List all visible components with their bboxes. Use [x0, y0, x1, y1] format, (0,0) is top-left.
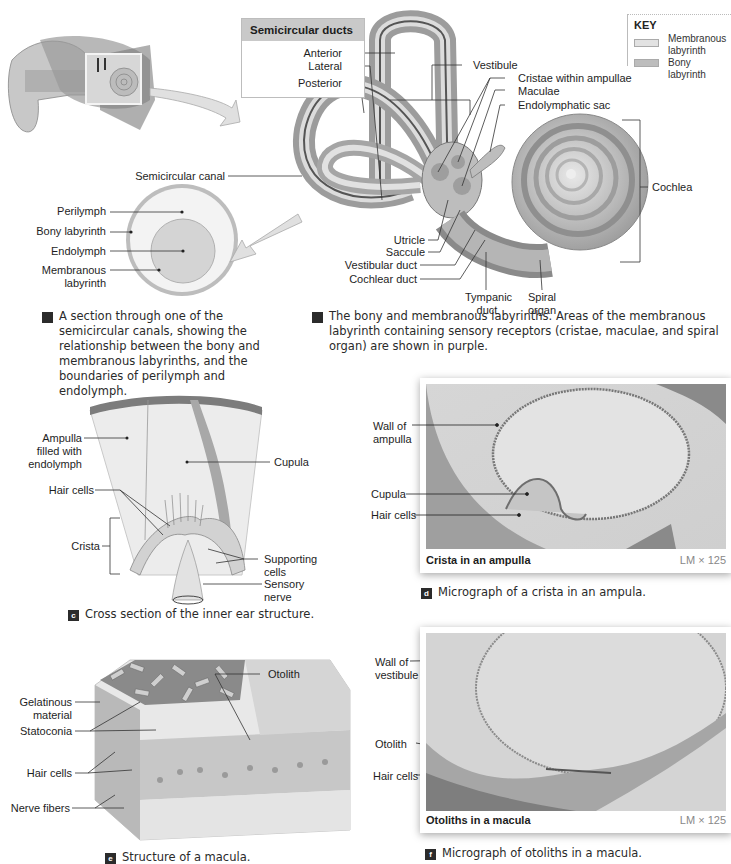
micrograph-crista-magnification: LM × 125 [680, 554, 726, 566]
macula-structure-illustration [72, 660, 350, 840]
ear-overview-illustration [8, 36, 155, 132]
caption-letter-c: c [68, 610, 79, 621]
caption-letter-d: d [421, 588, 432, 599]
label-cristae: Cristae within ampullae [518, 72, 632, 85]
legend-membranous-label: Membranouslabyrinth [668, 33, 726, 57]
label-wall-of-ampulla: Wall ofampulla [373, 420, 412, 446]
label-saccule: Saccule [360, 246, 425, 259]
arrow-to-cross-section [230, 214, 302, 262]
caption-f: fMicrograph of otoliths in a macula. [425, 846, 725, 861]
bony-swatch [634, 59, 659, 67]
micrograph-crista: Crista in an ampulla LM × 125 [420, 378, 731, 573]
label-supporting-cells: Supportingcells [264, 553, 317, 579]
caption-d: dMicrograph of a crista in an ampula. [421, 585, 721, 600]
label-membranous-labyrinth: Membranouslabyrinth [20, 264, 106, 290]
membranous-swatch [634, 39, 659, 47]
micrograph-otoliths-magnification: LM × 125 [680, 814, 726, 826]
caption-b: bThe bony and membranous labyrinths. Are… [312, 309, 727, 354]
legend-bony-label: Bony labyrinth [668, 57, 731, 81]
arrow-to-labyrinth [150, 88, 240, 126]
caption-letter-f: f [425, 849, 436, 860]
label-sensory-nerve: Sensorynerve [264, 578, 304, 604]
caption-letter-e: e [105, 853, 116, 864]
micrograph-otoliths-footer: Otoliths in a macula LM × 125 [426, 811, 726, 829]
label-hair-cells-d: Hair cells [371, 509, 416, 522]
label-endolymph: Endolymph [20, 245, 106, 258]
label-perilymph: Perilymph [20, 205, 106, 218]
label-cochlea: Cochlea [652, 181, 692, 194]
micrograph-crista-footer: Crista in an ampulla LM × 125 [426, 551, 726, 569]
label-anterior: Anterior [290, 47, 342, 60]
label-hair-cells-f: Hair cells [373, 770, 418, 783]
label-ampulla: Ampullafilled withendolymph [20, 432, 82, 471]
legend-title: KEY [634, 19, 657, 31]
label-cupula: Cupula [274, 456, 309, 469]
label-hair-cells-c: Hair cells [30, 484, 94, 497]
label-wall-of-vestibule: Wall ofvestibule [375, 656, 418, 682]
label-hair-cells-e: Hair cells [10, 767, 72, 780]
label-gelatinous-material: Gelatinousmaterial [10, 696, 72, 722]
label-crista: Crista [40, 540, 100, 553]
semicircular-canal-cross-section [110, 184, 238, 296]
label-otolith-f: Otolith [375, 738, 407, 751]
crista-micrograph-image [426, 384, 726, 549]
label-cochlear-duct: Cochlear duct [310, 273, 417, 286]
ampulla-crista-illustration [84, 396, 270, 604]
label-maculae: Maculae [518, 85, 560, 98]
label-lateral: Lateral [290, 60, 342, 73]
caption-letter-b: b [312, 312, 323, 323]
semicircular-ducts-title: Semicircular ducts [242, 19, 364, 41]
caption-letter-a: a [42, 312, 53, 323]
label-statoconia: Statoconia [10, 725, 72, 738]
label-bony-labyrinth: Bony labyrinth [10, 225, 106, 238]
label-vestibule: Vestibule [473, 59, 518, 72]
caption-e: eStructure of a macula. [105, 850, 305, 864]
label-otolith-e: Otolith [268, 668, 300, 681]
micrograph-crista-title: Crista in an ampulla [426, 554, 531, 566]
label-nerve-fibers: Nerve fibers [0, 802, 70, 815]
micrograph-otoliths: Otoliths in a macula LM × 125 [420, 627, 731, 833]
legend-key: KEY Membranouslabyrinth Bony labyrinth [627, 14, 731, 66]
caption-c: cCross section of the inner ear structur… [68, 607, 328, 622]
label-posterior: Posterior [280, 77, 342, 90]
label-vestibular-duct: Vestibular duct [310, 259, 417, 272]
micrograph-otoliths-title: Otoliths in a macula [426, 814, 531, 826]
label-semicircular-canal: Semicircular canal [110, 170, 225, 183]
caption-a: aA section through one of the semicircul… [42, 309, 292, 399]
otoliths-micrograph-image [426, 633, 726, 811]
label-cupula-d: Cupula [371, 488, 406, 501]
label-endolymphatic-sac: Endolymphatic sac [518, 99, 610, 112]
